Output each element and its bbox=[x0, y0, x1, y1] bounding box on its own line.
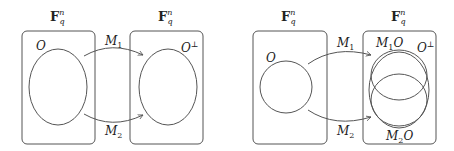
image-m2o-label: M2O bbox=[385, 129, 413, 145]
set-o-ellipse bbox=[29, 49, 87, 125]
map-m2-label: M2 bbox=[104, 124, 122, 140]
space-left-box bbox=[253, 31, 327, 144]
map-m2-arrow bbox=[308, 110, 371, 121]
image-m1o-label: M1O bbox=[375, 36, 403, 52]
space-left-label: Fnq bbox=[50, 8, 65, 26]
set-o-label: O bbox=[266, 51, 276, 65]
set-o-perp-label: O⊥ bbox=[181, 40, 198, 55]
diagram-canvas: Fnq O Fnq O⊥ M1 M2 Fnq O Fnq M1O O⊥ M2O … bbox=[0, 0, 454, 151]
diagram-2: Fnq O Fnq M1O O⊥ M2O M1 M2 bbox=[253, 8, 436, 145]
map-m1-label: M1 bbox=[336, 36, 354, 52]
set-o-circle bbox=[260, 61, 312, 113]
map-m1-arrow bbox=[308, 52, 371, 64]
set-o-label: O bbox=[36, 39, 46, 53]
image-m1o-ellipse bbox=[371, 50, 427, 100]
map-m1-label: M1 bbox=[104, 34, 122, 50]
map-m2-label: M2 bbox=[336, 124, 354, 140]
map-m2-arrow bbox=[84, 114, 143, 122]
space-right-label: Fnq bbox=[158, 8, 173, 26]
set-o-perp-ellipse bbox=[139, 49, 197, 125]
space-right-label: Fnq bbox=[391, 8, 406, 26]
space-left-box bbox=[22, 31, 95, 144]
set-o-perp-label: O⊥ bbox=[417, 40, 434, 55]
space-left-label: Fnq bbox=[281, 8, 296, 26]
map-m1-arrow bbox=[84, 48, 143, 56]
diagram-1: Fnq O Fnq O⊥ M1 M2 bbox=[22, 8, 203, 144]
